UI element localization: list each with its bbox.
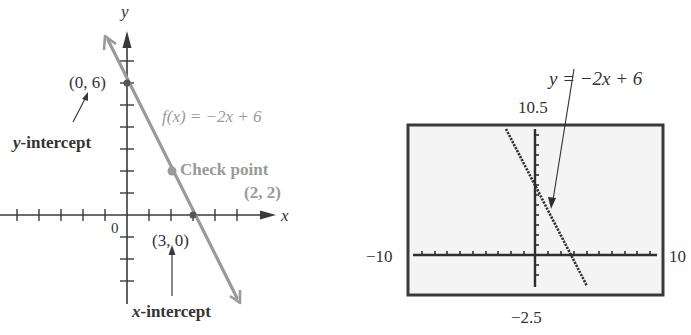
pointer-arrow-icon bbox=[82, 92, 88, 101]
x-intercept-pointer bbox=[169, 245, 176, 296]
calculator-graph: y = \u22122 y = −2x + 6 10.5 −2.5 −10 10 bbox=[366, 68, 686, 327]
y-axis-arrow-icon bbox=[123, 31, 132, 48]
x-intercept-coords: (3, 0) bbox=[152, 231, 189, 250]
x-intercept-caption: x-intercept bbox=[131, 302, 211, 321]
y-intercept-point bbox=[124, 80, 131, 87]
calc-xmax-label: 10 bbox=[669, 247, 686, 266]
x-axis-arrow-icon bbox=[260, 211, 276, 220]
figure-canvas: y x 0 (0, 6) y-intercept f(x) = −2x + 6 … bbox=[0, 0, 691, 335]
y-intercept-coords: (0, 6) bbox=[69, 73, 106, 92]
x-intercept-point bbox=[190, 212, 197, 219]
left-graph: y x 0 (0, 6) y-intercept f(x) = −2x + 6 … bbox=[0, 2, 289, 321]
origin-label: 0 bbox=[111, 220, 119, 236]
calc-ymin-label: −2.5 bbox=[511, 308, 542, 327]
calc-equation-label-bound: y = −2x + 6 bbox=[547, 68, 643, 89]
y-intercept-caption: y-intercept bbox=[11, 133, 91, 152]
check-point-caption: Check point bbox=[180, 160, 269, 179]
function-label: f(x) = −2x + 6 bbox=[162, 107, 262, 126]
x-axis-label: x bbox=[280, 206, 289, 225]
check-point-marker bbox=[168, 167, 177, 176]
y-intercept-pointer bbox=[73, 92, 88, 122]
check-point-coords: (2, 2) bbox=[244, 183, 281, 202]
y-axis bbox=[120, 31, 134, 304]
calc-xmin-label: −10 bbox=[366, 247, 393, 266]
y-axis-label: y bbox=[119, 2, 129, 21]
calc-ymax-label: 10.5 bbox=[518, 98, 548, 117]
x-axis bbox=[0, 209, 276, 221]
